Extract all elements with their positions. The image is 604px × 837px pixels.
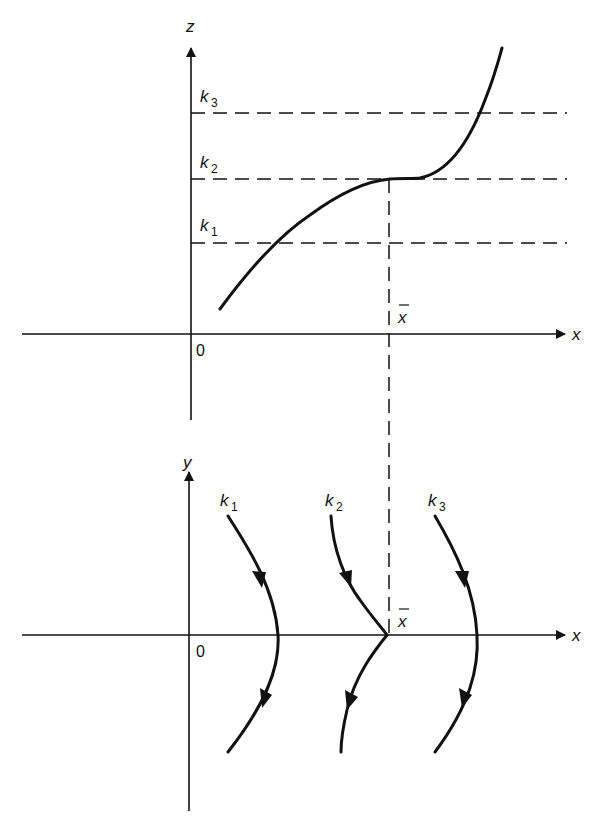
svg-text:k: k — [200, 87, 210, 106]
svg-text:k: k — [200, 216, 210, 235]
trajectory-label-k2: k 2 — [325, 491, 343, 514]
upper-panel: z x 0 x k 3 k 2 k 1 — [22, 17, 581, 636]
trajectory-k2 — [331, 516, 387, 752]
lower-xbar-label: x — [397, 609, 409, 631]
trajectory-label-k3: k 3 — [428, 491, 446, 514]
svg-text:k: k — [220, 491, 230, 510]
lower-x-axis-label: x — [571, 626, 581, 645]
svg-text:x: x — [397, 612, 407, 631]
upper-origin-label: 0 — [196, 342, 205, 359]
z-axis-label: z — [185, 17, 195, 36]
level-label-k1: k 1 — [200, 216, 218, 239]
trajectory-k1 — [228, 516, 278, 752]
upper-x-axis-label: x — [571, 325, 581, 344]
svg-text:1: 1 — [231, 500, 238, 514]
trajectory-k3 — [435, 516, 477, 752]
svg-text:3: 3 — [211, 96, 218, 110]
level-label-k2: k 2 — [200, 153, 218, 176]
arrow-down-icon — [339, 570, 352, 587]
arrow-down-icon — [252, 571, 266, 588]
svg-text:2: 2 — [336, 500, 343, 514]
svg-text:2: 2 — [211, 162, 218, 176]
svg-text:x: x — [397, 308, 407, 327]
phase-diagram: z x 0 x k 3 k 2 k 1 — [0, 0, 604, 837]
svg-text:k: k — [200, 153, 210, 172]
svg-text:k: k — [428, 491, 438, 510]
level-label-k3: k 3 — [200, 87, 218, 110]
svg-text:3: 3 — [439, 500, 446, 514]
lower-panel: y x 0 x k 1 k 2 k 3 — [22, 453, 581, 811]
lower-origin-label: 0 — [196, 643, 205, 660]
svg-text:1: 1 — [211, 225, 218, 239]
upper-xbar-label: x — [397, 305, 409, 327]
trajectory-label-k1: k 1 — [220, 491, 238, 514]
svg-text:k: k — [325, 491, 335, 510]
y-axis-label: y — [182, 453, 193, 472]
